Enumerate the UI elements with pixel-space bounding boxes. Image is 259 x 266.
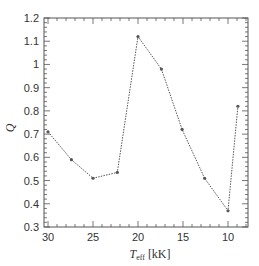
data-point	[236, 105, 239, 108]
data-point	[160, 67, 163, 70]
x-axis-label: Teff[kK]	[129, 247, 170, 262]
y-axis-ticks: 0.30.40.50.60.70.80.911.11.2	[24, 12, 248, 233]
data-point	[116, 171, 119, 174]
y-tick-label: 0.3	[24, 221, 39, 233]
x-tick-label: 10	[222, 231, 234, 243]
x-tick-label: 25	[87, 231, 99, 243]
y-tick-label: 0.7	[24, 128, 39, 140]
data-point	[136, 35, 139, 38]
y-tick-label: 1.2	[24, 12, 39, 24]
y-tick-label: 0.5	[24, 175, 39, 187]
x-tick-label: 20	[132, 231, 144, 243]
data-point	[46, 130, 49, 133]
y-tick-label: 0.6	[24, 151, 39, 163]
y-tick-label: 1	[33, 58, 39, 70]
x-tick-label: 15	[177, 231, 189, 243]
y-tick-label: 0.8	[24, 105, 39, 117]
data-point	[70, 158, 73, 161]
data-point	[91, 177, 94, 180]
y-axis-label: Q	[3, 123, 17, 132]
series-line	[48, 37, 238, 211]
y-tick-label: 1.1	[24, 35, 39, 47]
x-axis-ticks: 3025201510	[42, 18, 246, 243]
y-tick-label: 0.4	[24, 198, 39, 210]
y-tick-label: 0.9	[24, 82, 39, 94]
x-tick-label: 30	[42, 231, 54, 243]
data-point	[203, 177, 206, 180]
data-point	[226, 209, 229, 212]
data-series	[46, 35, 239, 212]
data-point	[181, 128, 184, 131]
line-chart: 0.30.40.50.60.70.80.911.11.2 3025201510 …	[0, 0, 259, 266]
